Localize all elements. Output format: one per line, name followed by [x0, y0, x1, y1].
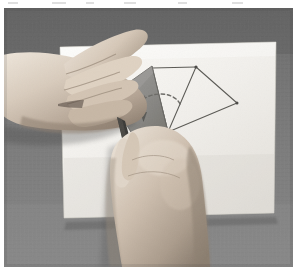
- left-margin-strip: [0, 0, 4, 267]
- photograph: [4, 8, 293, 267]
- scan-artifact: [232, 2, 243, 4]
- scan-artifact: [178, 2, 187, 4]
- photograph-canvas: [4, 8, 293, 267]
- scan-artifact: [124, 2, 136, 4]
- scan-artifact: [8, 2, 18, 4]
- right-margin-strip: [293, 0, 300, 267]
- top-margin-strip: [0, 0, 300, 8]
- figure-root: [0, 0, 300, 267]
- scan-artifact: [86, 2, 94, 4]
- scan-artifact: [52, 2, 66, 4]
